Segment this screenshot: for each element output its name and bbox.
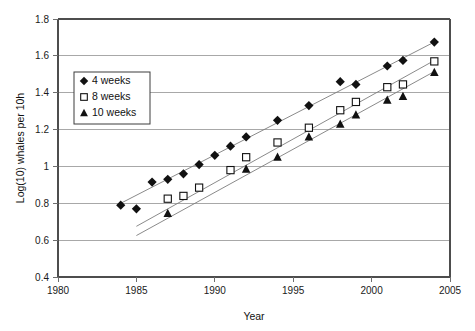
marker-diamond-icon: [351, 80, 360, 89]
x-axis-ticks: 198019851990199520002005: [47, 277, 462, 296]
x-tick-label: 2005: [439, 285, 462, 296]
marker-square-icon: [337, 107, 344, 114]
marker-square-icon: [384, 84, 391, 91]
marker-diamond-icon: [430, 37, 439, 46]
series-10-weeks: [163, 68, 438, 217]
marker-triangle-icon: [336, 119, 345, 127]
scatter-plot: 198019851990199520002005 0.40.60.811.21.…: [0, 0, 475, 331]
y-axis-title: Log(10) whales per 10h: [14, 93, 26, 203]
chart-legend: 4 weeks8 weeks10 weeks: [74, 72, 150, 124]
x-tick-label: 1980: [47, 285, 70, 296]
y-tick-label: 1.6: [35, 50, 49, 61]
marker-square-icon: [81, 94, 88, 101]
marker-diamond-icon: [383, 61, 392, 70]
marker-square-icon: [196, 184, 203, 191]
marker-square-icon: [243, 154, 250, 161]
marker-triangle-icon: [352, 110, 361, 118]
y-tick-label: 0.8: [35, 198, 49, 209]
x-tick-label: 1995: [282, 285, 305, 296]
y-tick-label: 1.8: [35, 14, 49, 25]
marker-diamond-icon: [398, 56, 407, 65]
marker-diamond-icon: [304, 101, 313, 110]
marker-square-icon: [227, 167, 234, 174]
legend-label-1: 8 weeks: [92, 90, 131, 102]
marker-diamond-icon: [179, 169, 188, 178]
axes: [58, 19, 450, 277]
y-tick-label: 1.4: [35, 87, 49, 98]
marker-triangle-icon: [305, 132, 314, 140]
marker-triangle-icon: [242, 165, 251, 173]
chart-container: 198019851990199520002005 0.40.60.811.21.…: [0, 0, 475, 331]
marker-diamond-icon: [163, 175, 172, 184]
series-4-weeks: [116, 37, 439, 213]
legend-label-0: 4 weeks: [92, 74, 131, 86]
marker-square-icon: [399, 81, 406, 88]
marker-square-icon: [352, 98, 359, 105]
marker-diamond-icon: [210, 151, 219, 160]
marker-diamond-icon: [132, 204, 141, 213]
y-tick-label: 1: [43, 161, 49, 172]
y-tick-label: 0.6: [35, 235, 49, 246]
x-tick-label: 1985: [125, 285, 148, 296]
marker-square-icon: [305, 124, 312, 131]
legend-label-2: 10 weeks: [92, 106, 136, 118]
y-tick-label: 1.2: [35, 124, 49, 135]
x-tick-label: 2000: [360, 285, 383, 296]
marker-square-icon: [180, 192, 187, 199]
y-tick-label: 0.4: [35, 272, 49, 283]
marker-diamond-icon: [226, 142, 235, 151]
y-axis-ticks: 0.40.60.811.21.41.61.8: [35, 14, 58, 283]
marker-diamond-icon: [273, 116, 282, 125]
marker-triangle-icon: [430, 68, 439, 76]
marker-square-icon: [274, 139, 281, 146]
gridlines: [58, 19, 450, 240]
marker-square-icon: [431, 58, 438, 65]
marker-square-icon: [164, 195, 171, 202]
x-axis-title: Year: [243, 310, 265, 322]
x-tick-label: 1990: [204, 285, 227, 296]
marker-diamond-icon: [336, 77, 345, 86]
